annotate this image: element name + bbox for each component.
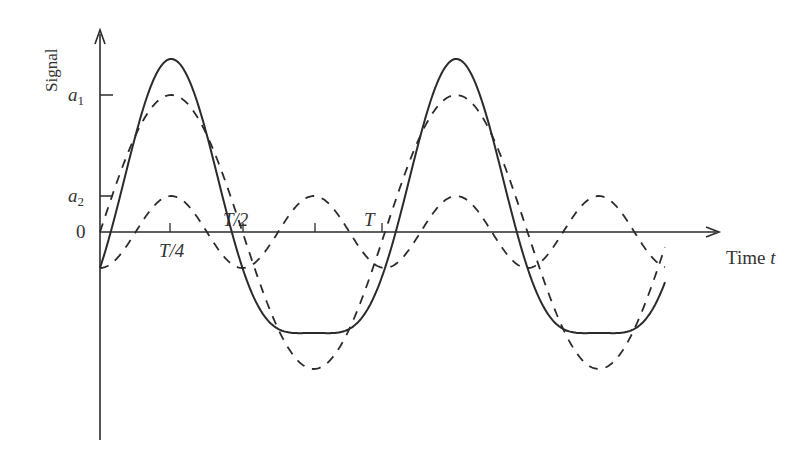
y-axis-label: Signal	[42, 48, 61, 92]
signal-diagram: a1a20 T/4T/2T Signal Time t	[0, 0, 799, 461]
y-tick-label: a1	[68, 84, 84, 108]
x-tick-label: T/4	[159, 240, 185, 261]
y-tick-label: a2	[68, 185, 84, 209]
y-ticks: a1a20	[68, 84, 113, 242]
x-tick-label: T	[364, 209, 376, 230]
x-ticks: T/4T/2T	[159, 209, 382, 261]
curves	[100, 59, 665, 369]
x-axis-label: Time t	[726, 247, 776, 268]
axes	[95, 30, 719, 440]
y-tick-label: 0	[76, 221, 86, 242]
